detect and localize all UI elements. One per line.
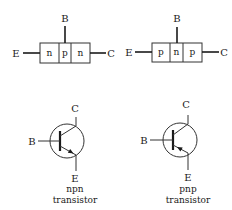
pnp-transistor-symbol: B C E pnp transistor <box>140 99 211 205</box>
npn-block-collector-label: C <box>107 48 115 59</box>
pnp-symbol-emitter-label: E <box>184 172 191 183</box>
pnp-block-region-base: n <box>174 47 180 57</box>
npn-symbol-base-label: B <box>28 136 35 147</box>
npn-caption-line2: transistor <box>53 195 98 205</box>
npn-block-diagram: B E C n p n <box>12 13 115 63</box>
pnp-block-region-emitter: p <box>158 47 164 57</box>
npn-block-base-label: B <box>61 13 68 24</box>
npn-transistor-symbol: B C E npn transistor <box>28 103 98 205</box>
npn-symbol-emitter-label: E <box>71 173 78 184</box>
pnp-caption-line1: pnp <box>179 184 197 194</box>
pnp-block-emitter-label: E <box>125 47 132 58</box>
npn-symbol-emitter-diagonal <box>60 146 76 155</box>
pnp-caption-line2: transistor <box>166 195 211 205</box>
npn-caption-line1: npn <box>66 184 84 194</box>
transistor-diagram: B E C n p n B E C p n p B <box>0 0 232 210</box>
pnp-block-region-collector: p <box>190 47 196 57</box>
pnp-block-base-label: B <box>173 13 180 24</box>
npn-block-region-base: p <box>62 48 68 58</box>
npn-symbol-collector-diagonal <box>60 126 76 136</box>
pnp-symbol-collector-label: C <box>182 99 190 110</box>
npn-block-region-emitter: n <box>47 48 53 58</box>
npn-block-emitter-label: E <box>12 48 19 59</box>
npn-block-region-collector: n <box>78 48 84 58</box>
pnp-symbol-collector-diagonal <box>173 124 188 135</box>
npn-symbol-collector-label: C <box>71 103 79 114</box>
pnp-symbol-base-label: B <box>140 135 147 146</box>
pnp-block-collector-label: C <box>220 47 228 58</box>
pnp-block-diagram: B E C p n p <box>125 13 228 62</box>
